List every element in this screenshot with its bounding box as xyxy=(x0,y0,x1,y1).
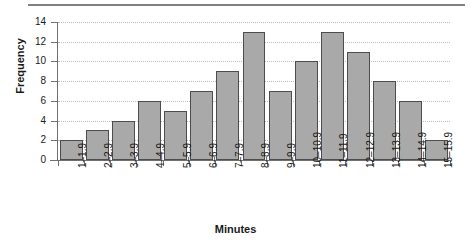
y-axis-line xyxy=(57,22,58,161)
y-tick-label: 2 xyxy=(20,135,46,145)
x-axis-title: Minutes xyxy=(0,223,471,235)
y-tick-label: 10 xyxy=(20,56,46,66)
histogram-figure: Frequency 02468101214 1–1.92–2.93–3.94–4… xyxy=(0,0,471,247)
y-tick-label: 6 xyxy=(20,96,46,106)
y-tick-label: 14 xyxy=(20,17,46,27)
top-divider-rule xyxy=(28,4,465,6)
y-tick-label: 4 xyxy=(20,116,46,126)
x-tick-label: 15–15.9 xyxy=(442,154,471,168)
y-tick-label: 8 xyxy=(20,76,46,86)
x-tick-mark xyxy=(58,161,59,166)
histogram-bar xyxy=(243,32,266,160)
gridline xyxy=(58,22,450,23)
y-tick-label: 0 xyxy=(20,155,46,165)
y-tick-label: 12 xyxy=(20,37,46,47)
